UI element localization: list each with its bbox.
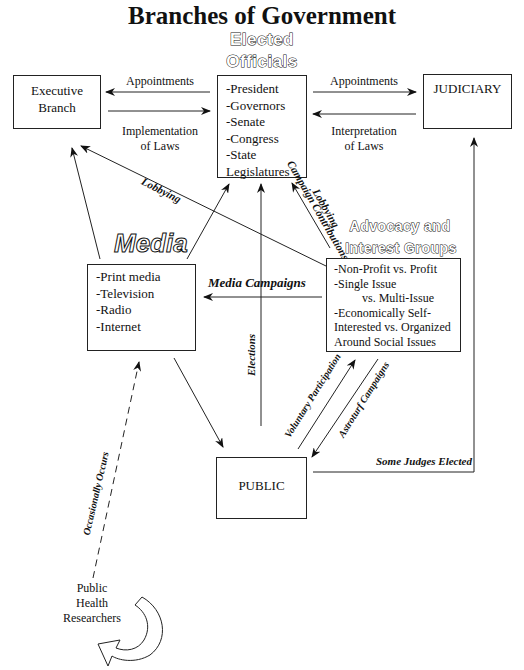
advocacy-item: -Economically Self- xyxy=(334,306,460,321)
media-heading: Media xyxy=(114,228,188,259)
researchers-line3: Researchers xyxy=(52,611,132,626)
implementation-line1: Implementation xyxy=(112,124,208,139)
official-item: -President xyxy=(226,81,306,98)
executive-branch-node: Executive Branch xyxy=(13,75,101,129)
advocacy-item: Around Social Issues xyxy=(334,335,460,350)
advocacy-item: -Single Issue xyxy=(334,277,460,292)
media-node: -Print media -Television -Radio -Interne… xyxy=(87,264,196,351)
public-node: PUBLIC xyxy=(216,457,307,519)
elected-heading-line1: Elected xyxy=(212,30,312,50)
advocacy-heading-line1: Advocacy and xyxy=(340,218,460,234)
edge-label-elections: Elections xyxy=(245,334,257,376)
edge-label-interpretation: Interpretation of Laws xyxy=(316,124,412,154)
judiciary-node: JUDICIARY xyxy=(423,74,512,129)
edge-label-media-campaigns: Media Campaigns xyxy=(208,275,306,291)
researchers-line2: Health xyxy=(52,596,132,611)
media-item: -Print media xyxy=(96,269,195,286)
judiciary-label: JUDICIARY xyxy=(424,81,511,98)
public-health-researchers-node: Public Health Researchers xyxy=(52,581,132,626)
media-item: -Radio xyxy=(96,302,195,319)
researchers-line1: Public xyxy=(52,581,132,596)
elected-heading-line2: Officials xyxy=(202,52,322,72)
advocacy-item: Interested vs. Organized xyxy=(334,320,460,335)
official-item: -Governors xyxy=(226,98,306,115)
advocacy-item: vs. Multi-Issue xyxy=(334,291,460,306)
edge-label-appointments-exec: Appointments xyxy=(112,74,208,89)
advocacy-node: -Non-Profit vs. Profit -Single Issue vs.… xyxy=(326,258,461,352)
media-item: -Internet xyxy=(96,319,195,336)
advocacy-item: -Non-Profit vs. Profit xyxy=(334,262,460,277)
executive-line1: Executive xyxy=(14,83,100,100)
interpretation-line2: of Laws xyxy=(316,139,412,154)
executive-line2: Branch xyxy=(14,100,100,117)
media-item: -Television xyxy=(96,286,195,303)
interpretation-line1: Interpretation xyxy=(316,124,412,139)
official-item: -Senate xyxy=(226,114,306,131)
edge-label-some-judges-elected: Some Judges Elected xyxy=(376,455,472,467)
edge-label-implementation: Implementation of Laws xyxy=(112,124,208,154)
edge-label-appointments-judiciary: Appointments xyxy=(316,74,412,89)
implementation-line2: of Laws xyxy=(112,139,208,154)
official-item: -Congress xyxy=(226,131,306,148)
advocacy-heading-line2: Interest Groups xyxy=(336,240,466,256)
public-label: PUBLIC xyxy=(217,478,306,495)
